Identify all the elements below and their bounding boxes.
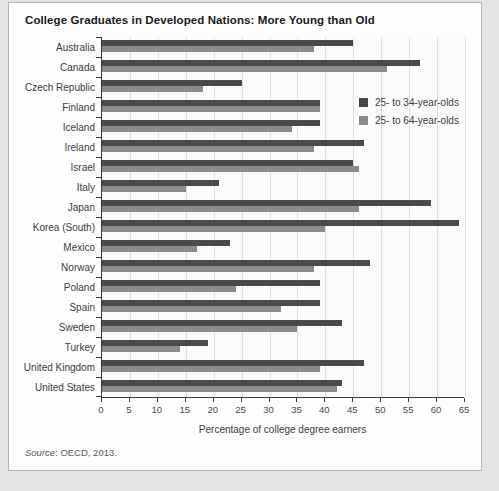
- x-axis-tick: [185, 398, 186, 402]
- bar-row: [102, 197, 465, 217]
- bar-row: [102, 217, 465, 237]
- old-bar: [102, 306, 281, 312]
- bar-row: [102, 237, 465, 257]
- x-axis-tick: [464, 398, 465, 402]
- bar-row: [102, 257, 465, 277]
- bar-row: [102, 177, 465, 197]
- bar-row: [102, 37, 465, 57]
- category-label: Mexico: [9, 237, 95, 257]
- y-axis-tick: [96, 117, 101, 118]
- young-series-swatch-icon: [359, 98, 368, 107]
- category-label: Israel: [9, 157, 95, 177]
- x-axis-tick: [213, 398, 214, 402]
- category-label: United Kingdom: [9, 357, 95, 377]
- y-axis-tick: [96, 137, 101, 138]
- old-bar: [102, 166, 359, 172]
- bar-row: [102, 317, 465, 337]
- bar-row: [102, 337, 465, 357]
- old-bar: [102, 146, 314, 152]
- y-axis-tick: [96, 177, 101, 178]
- category-label: Ireland: [9, 137, 95, 157]
- x-axis-tick-label: 5: [126, 404, 131, 415]
- legend: 25- to 34-year-olds 25- to 64-year-olds: [359, 93, 459, 129]
- y-axis-tick: [96, 337, 101, 338]
- category-label: Japan: [9, 197, 95, 217]
- old-bar: [102, 366, 320, 372]
- legend-young-label: 25- to 34-year-olds: [375, 97, 459, 108]
- bar-row: [102, 377, 465, 397]
- category-label: Korea (South): [9, 217, 95, 237]
- source-note: Source: OECD, 2013.: [25, 447, 117, 458]
- x-axis-tick-label: 10: [152, 404, 163, 415]
- legend-item-young: 25- to 34-year-olds: [359, 93, 459, 111]
- x-axis-tick-label: 15: [179, 404, 190, 415]
- x-axis-label: Percentage of college degree earners: [101, 424, 464, 435]
- old-bar: [102, 346, 180, 352]
- y-axis-tick: [96, 197, 101, 198]
- y-axis-tick: [96, 97, 101, 98]
- old-series-swatch-icon: [359, 116, 368, 125]
- x-axis-tick: [408, 398, 409, 402]
- bar-row: [102, 57, 465, 77]
- category-label: Poland: [9, 277, 95, 297]
- x-axis-tick: [436, 398, 437, 402]
- legend-item-old: 25- to 64-year-olds: [359, 111, 459, 129]
- x-axis-tick-label: 35: [291, 404, 302, 415]
- old-bar: [102, 106, 320, 112]
- x-axis-tick-label: 25: [235, 404, 246, 415]
- x-axis-tick-label: 30: [263, 404, 274, 415]
- y-axis-tick: [96, 37, 101, 38]
- y-axis-tick: [96, 237, 101, 238]
- y-axis-tick: [96, 297, 101, 298]
- x-axis-tick: [101, 398, 102, 402]
- y-axis-tick: [96, 277, 101, 278]
- bar-chart: AustraliaCanadaCzech RepublicFinlandIcel…: [9, 3, 481, 470]
- x-axis-tick: [352, 398, 353, 402]
- x-axis-tick-label: 50: [375, 404, 386, 415]
- y-axis-tick: [96, 157, 101, 158]
- old-bar: [102, 86, 203, 92]
- x-axis-tick-label: 40: [319, 404, 330, 415]
- old-bar: [102, 186, 186, 192]
- x-axis-tick: [324, 398, 325, 402]
- x-axis-tick-label: 55: [403, 404, 414, 415]
- source-rest: : OECD, 2013.: [55, 447, 117, 458]
- bar-row: [102, 277, 465, 297]
- x-axis-tick-label: 0: [98, 404, 103, 415]
- old-bar: [102, 66, 387, 72]
- legend-old-label: 25- to 64-year-olds: [375, 115, 459, 126]
- figure-card: College Graduates in Developed Nations: …: [8, 2, 482, 471]
- x-axis-tick: [157, 398, 158, 402]
- x-axis-tick: [269, 398, 270, 402]
- x-axis-tick: [296, 398, 297, 402]
- category-label: United States: [9, 377, 95, 397]
- old-bar: [102, 206, 359, 212]
- old-bar: [102, 326, 297, 332]
- category-label: Italy: [9, 177, 95, 197]
- category-label: Czech Republic: [9, 77, 95, 97]
- category-label: Turkey: [9, 337, 95, 357]
- category-labels: AustraliaCanadaCzech RepublicFinlandIcel…: [9, 37, 95, 397]
- y-axis-tick: [96, 217, 101, 218]
- y-axis-tick: [96, 77, 101, 78]
- category-label: Norway: [9, 257, 95, 277]
- bar-row: [102, 137, 465, 157]
- y-axis-tick: [96, 377, 101, 378]
- old-bar: [102, 126, 292, 132]
- category-label: Canada: [9, 57, 95, 77]
- category-label: Sweden: [9, 317, 95, 337]
- source-label: Source: [25, 447, 55, 458]
- y-axis-tick: [96, 317, 101, 318]
- x-axis-tick: [380, 398, 381, 402]
- gridline: [465, 37, 466, 397]
- old-bar: [102, 46, 314, 52]
- old-bar: [102, 286, 236, 292]
- bar-row: [102, 357, 465, 377]
- category-label: Finland: [9, 97, 95, 117]
- old-bar: [102, 226, 325, 232]
- category-label: Australia: [9, 37, 95, 57]
- category-label: Spain: [9, 297, 95, 317]
- bar-row: [102, 157, 465, 177]
- old-bar: [102, 266, 314, 272]
- x-axis-tick-label: 60: [431, 404, 442, 415]
